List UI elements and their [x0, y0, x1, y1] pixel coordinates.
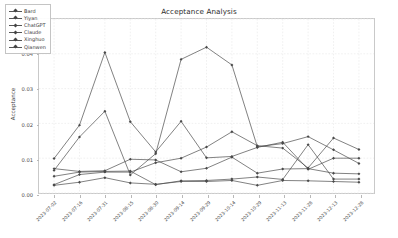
- data-point: [357, 157, 360, 160]
- data-point: [205, 167, 208, 170]
- legend-item-yiyan[interactable]: Yiyan: [9, 15, 46, 22]
- series-qianwen: [53, 176, 361, 187]
- x-tick-mark: [233, 195, 234, 198]
- legend-line-marker-icon: [9, 44, 22, 51]
- data-point: [256, 176, 259, 179]
- x-tick-mark: [105, 195, 106, 198]
- legend-label: Claude: [24, 29, 41, 36]
- y-tick-label: 0.01: [0, 157, 33, 163]
- y-tick-mark: [37, 160, 40, 161]
- x-tick-mark: [80, 195, 81, 198]
- data-point: [180, 170, 183, 173]
- data-point: [129, 158, 132, 161]
- chart-figure: Acceptance Analysis Acceptance 0.000.010…: [0, 0, 398, 238]
- legend-line-marker-icon: [9, 8, 22, 15]
- data-point: [281, 168, 284, 171]
- x-tick-mark: [208, 195, 209, 198]
- legend-label: Yiyan: [24, 15, 37, 22]
- data-point: [307, 179, 310, 182]
- data-point: [357, 172, 360, 175]
- data-point: [256, 184, 259, 187]
- legend-item-claude[interactable]: Claude: [9, 29, 46, 36]
- legend-item-chatgpt[interactable]: ChatGPT: [9, 22, 46, 29]
- legend-label: Bard: [24, 8, 36, 15]
- data-point: [332, 172, 335, 175]
- legend-item-qianwen[interactable]: Qianwen: [9, 43, 46, 50]
- legend-label: Xinghuo: [24, 36, 45, 43]
- data-point: [332, 148, 335, 151]
- data-point: [180, 157, 183, 160]
- x-tick-mark: [335, 195, 336, 198]
- data-point: [307, 135, 310, 138]
- data-point: [154, 158, 157, 161]
- legend-line-marker-icon: [9, 36, 22, 43]
- legend-item-xinghuo[interactable]: Xinghuo: [9, 36, 46, 43]
- y-tick-mark: [37, 54, 40, 55]
- y-tick-mark: [37, 195, 40, 196]
- legend-line-marker-icon: [9, 29, 22, 36]
- x-tick-mark: [54, 195, 55, 198]
- data-layer: [39, 19, 374, 193]
- legend-label: Qianwen: [24, 44, 46, 51]
- y-tick-mark: [37, 125, 40, 126]
- legend-line-marker-icon: [9, 22, 22, 29]
- y-tick-label: 0.02: [0, 122, 33, 128]
- data-point: [129, 181, 132, 184]
- data-point: [357, 178, 360, 181]
- y-tick-label: 0.00: [0, 192, 33, 198]
- y-tick-mark: [37, 89, 40, 90]
- data-point: [180, 58, 183, 61]
- data-point: [357, 148, 360, 151]
- chart-title: Acceptance Analysis: [0, 7, 398, 16]
- plot-area: Acceptance 0.000.010.020.030.040.05 2023…: [38, 18, 375, 194]
- legend-item-bard[interactable]: Bard: [9, 8, 46, 15]
- x-tick-mark: [182, 195, 183, 198]
- x-tick-label: 2023-12-28: [318, 200, 364, 238]
- x-tick-mark: [131, 195, 132, 198]
- data-point: [53, 175, 56, 178]
- y-tick-label: 0.03: [0, 86, 33, 92]
- x-tick-mark: [284, 195, 285, 198]
- legend-label: ChatGPT: [24, 22, 46, 29]
- legend-line-marker-icon: [9, 15, 22, 22]
- x-tick-mark: [259, 195, 260, 198]
- x-tick-mark: [361, 195, 362, 198]
- data-point: [357, 181, 360, 184]
- x-tick-mark: [156, 195, 157, 198]
- y-axis-label: Acceptance: [10, 64, 16, 144]
- data-point: [154, 183, 157, 186]
- data-point: [103, 176, 106, 179]
- chart-legend: BardYiyanChatGPTClaudeXinghuoQianwen: [5, 4, 51, 54]
- data-point: [53, 167, 56, 170]
- data-point: [103, 51, 106, 54]
- data-point: [154, 161, 157, 164]
- series-xinghuo: [53, 143, 361, 186]
- x-tick-mark: [310, 195, 311, 198]
- data-point: [205, 146, 208, 149]
- data-point: [78, 181, 81, 184]
- data-point: [357, 162, 360, 165]
- data-point: [332, 157, 335, 160]
- data-point: [332, 180, 335, 183]
